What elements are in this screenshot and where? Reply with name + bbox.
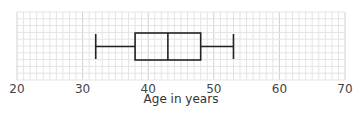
x-axis-label: Age in years xyxy=(144,92,219,106)
box-plot-chart: 203040506070 Age in years xyxy=(0,0,359,114)
x-tick-label: 30 xyxy=(75,82,90,96)
x-tick-label: 70 xyxy=(337,82,352,96)
grid xyxy=(17,12,345,80)
x-tick-label: 60 xyxy=(272,82,287,96)
x-tick-label: 20 xyxy=(9,82,24,96)
